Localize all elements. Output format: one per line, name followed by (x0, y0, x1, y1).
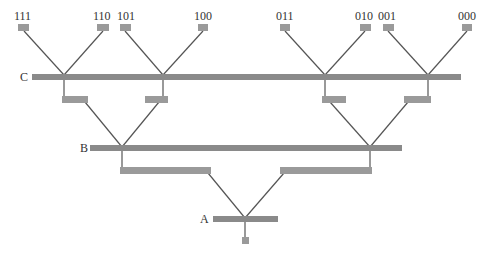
level-label-c: C (20, 71, 28, 83)
root-node (242, 237, 249, 244)
level-label-b: B (80, 142, 88, 154)
bus-a (213, 216, 278, 222)
level-label-a: A (200, 213, 209, 225)
switch-b-2 (280, 167, 372, 174)
leaf-nodes (18, 24, 472, 31)
leaf-label-111: 111 (14, 10, 31, 22)
tree-diagram (0, 0, 492, 256)
leaf-node-000 (462, 24, 472, 31)
leaf-label-101: 101 (117, 10, 135, 22)
leaf-label-110: 110 (93, 10, 111, 22)
bus-c (32, 74, 461, 80)
leaf-node-111 (18, 24, 29, 31)
c-level-switches (62, 96, 431, 103)
switch-c-1 (62, 96, 88, 103)
switch-c-2 (145, 96, 168, 103)
leaf-label-001: 001 (378, 10, 396, 22)
leaf-node-011 (280, 24, 290, 31)
leaf-node-010 (360, 24, 371, 31)
bus-b (90, 145, 402, 151)
leaf-label-100: 100 (194, 10, 212, 22)
leaf-label-010: 010 (355, 10, 373, 22)
leaf-label-000: 000 (458, 10, 476, 22)
leaf-label-011: 011 (276, 10, 294, 22)
switch-b-1 (120, 167, 211, 174)
leaf-node-100 (198, 24, 208, 31)
connector-lines (24, 31, 467, 238)
leaf-node-101 (120, 24, 131, 31)
b-level-switches (120, 167, 372, 174)
leaf-node-001 (383, 24, 394, 31)
switch-c-3 (322, 96, 346, 103)
leaf-node-110 (97, 24, 109, 31)
switch-c-4 (404, 96, 431, 103)
